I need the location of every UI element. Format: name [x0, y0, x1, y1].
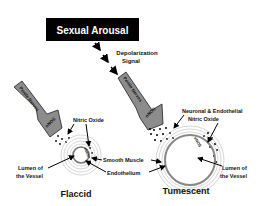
flaccid-vessel: eNOS	[61, 135, 101, 175]
sexual-arousal-label: Sexual Arousal	[57, 25, 129, 36]
flaccid-label: Flaccid	[60, 189, 91, 199]
lumen-right-line1: Lumen of	[222, 165, 247, 171]
tumescent-label: Tumescent	[163, 186, 210, 196]
right-penile-nerve: Penile Nerves nNOS	[118, 72, 163, 130]
sexual-arousal-box: Sexual Arousal	[46, 18, 139, 41]
left-nerve-label: Penile Nerves	[18, 86, 40, 113]
smooth-muscle-label: Smooth Muscle	[103, 157, 144, 163]
endothelium-label: Endothelium	[107, 170, 140, 176]
vasodilation-diagram: Sexual Arousal Depolarization Signal Pen…	[0, 0, 266, 206]
signal-label: Signal	[122, 58, 140, 64]
lumen-left-line1: Lumen of	[18, 165, 43, 171]
left-penile-nerve: Penile Nerves nNOS	[14, 81, 62, 137]
lumen-left-line2: the Vessel	[16, 173, 43, 179]
lumen-right-line2: the Vessel	[220, 173, 247, 179]
neuronal-endothelial-label: Neuronal & Endothelial	[182, 108, 243, 114]
tumescent-vessel: eNOS	[156, 126, 224, 194]
depolarization-label: Depolarization	[116, 50, 158, 56]
nitric-oxide-label: Nitric Oxide	[73, 117, 104, 123]
neuronal-no-label: Nitric Oxide	[188, 116, 219, 122]
depolarization-arrows	[95, 43, 117, 74]
